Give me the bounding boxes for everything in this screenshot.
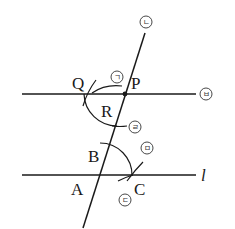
label-a: A: [71, 180, 84, 199]
svg-text:ㅁ: ㅁ: [144, 144, 151, 153]
point-p: [123, 92, 128, 97]
svg-text:ㅂ: ㅂ: [203, 90, 210, 99]
label-c: C: [134, 180, 145, 199]
svg-text:ㄹ: ㄹ: [132, 123, 139, 132]
marker-nieun: ㄴ: [140, 16, 152, 28]
svg-text:ㄴ: ㄴ: [143, 18, 150, 27]
label-line-l: l: [201, 166, 206, 185]
svg-text:ㄱ: ㄱ: [114, 73, 121, 82]
marker-digeut: ㄷ: [119, 194, 131, 206]
label-p: P: [131, 74, 140, 93]
label-r: R: [101, 102, 113, 121]
label-b: B: [88, 147, 99, 166]
arc-at-c-lower: [118, 175, 133, 181]
marker-mieum: ㅁ: [141, 142, 153, 154]
arc-qr-upper: [92, 86, 122, 93]
arc-at-c: [127, 162, 143, 181]
marker-giyeok: ㄱ: [111, 71, 123, 83]
marker-rieul: ㄹ: [129, 121, 141, 133]
arc-tick-r: [112, 126, 127, 127]
construction-diagram: Q P R B A C l ㄱ ㄴ ㄷ ㄹ ㅁ ㅂ: [0, 0, 235, 229]
svg-text:ㄷ: ㄷ: [122, 196, 129, 205]
label-q: Q: [72, 74, 84, 93]
marker-bieup: ㅂ: [200, 88, 212, 100]
